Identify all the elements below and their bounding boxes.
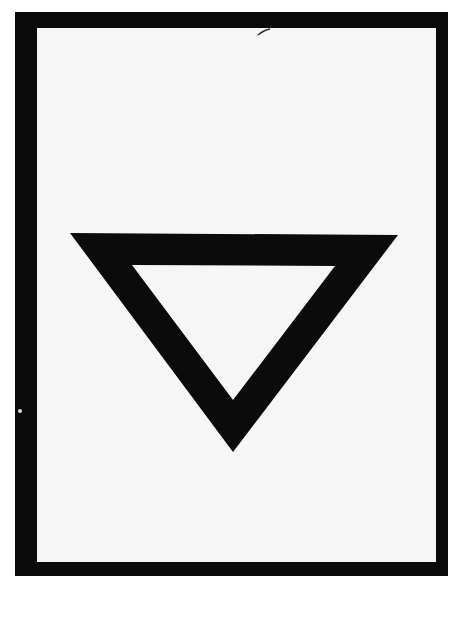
triangle-outline bbox=[70, 233, 398, 452]
inverted-triangle-icon bbox=[0, 0, 460, 623]
pen-mark bbox=[258, 29, 270, 35]
